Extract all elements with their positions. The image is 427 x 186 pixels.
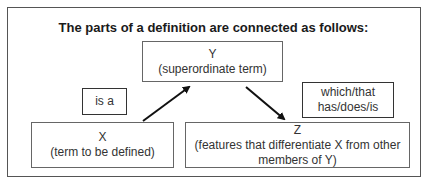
arrow-x-to-y-icon	[143, 87, 189, 121]
arrow-y-to-z-icon	[246, 87, 284, 119]
arrows-layer	[0, 0, 427, 186]
